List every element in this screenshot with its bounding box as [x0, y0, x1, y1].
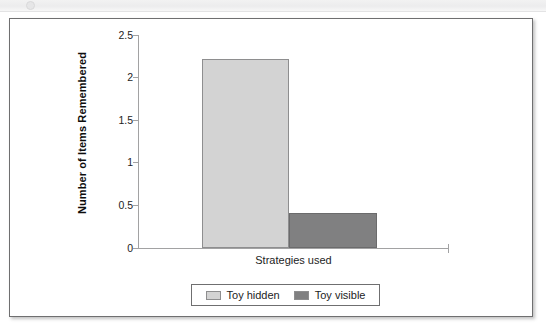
- bar-toy-hidden: [202, 59, 289, 248]
- legend-label-toy-visible: Toy visible: [315, 289, 366, 301]
- bullet-mark-icon: [26, 1, 35, 10]
- plot-area: Number of Items Remembered 2.5 2 1.5 1 0…: [10, 19, 534, 318]
- legend-label-toy-hidden: Toy hidden: [227, 289, 280, 301]
- chart-legend: Toy hidden Toy visible: [191, 284, 380, 306]
- page-top-strip: [0, 0, 546, 12]
- y-tick-label-2: 2: [73, 72, 133, 82]
- legend-swatch-toy-hidden: [206, 291, 221, 300]
- legend-entry-toy-visible: Toy visible: [294, 289, 366, 301]
- x-axis-endcap: [448, 244, 449, 253]
- y-axis-line: [138, 35, 139, 249]
- x-axis-title: Strategies used: [138, 254, 449, 266]
- y-tick-label-1: 1: [73, 157, 133, 167]
- legend-swatch-toy-visible: [294, 291, 309, 300]
- y-tick-label-1-5: 1.5: [73, 115, 133, 125]
- figure-panel: Number of Items Remembered 2.5 2 1.5 1 0…: [9, 18, 533, 317]
- y-tick-label-2-5: 2.5: [73, 30, 133, 40]
- y-tick-label-0: 0: [73, 243, 133, 253]
- legend-entry-toy-hidden: Toy hidden: [206, 289, 280, 301]
- bar-toy-visible: [289, 213, 377, 248]
- y-tick-label-0-5: 0.5: [73, 200, 133, 210]
- x-axis-line: [138, 248, 449, 249]
